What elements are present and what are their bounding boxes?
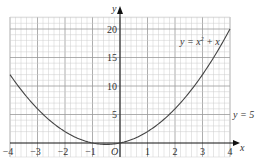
y-tick-label: 10 — [107, 81, 117, 92]
x-tick-label: −2 — [58, 146, 69, 157]
x-tick-label: 4 — [228, 146, 233, 157]
y-tick-labels: 5101520 — [107, 24, 117, 121]
origin-label: O — [111, 146, 118, 157]
x-tick-label: 1 — [145, 146, 150, 157]
y-tick-label: 15 — [107, 52, 117, 63]
x-tick-label: 2 — [173, 146, 178, 157]
curve-label: y = x2 + x — [179, 36, 220, 47]
y-tick-label: 20 — [107, 24, 117, 35]
x-tick-label: −4 — [3, 146, 14, 157]
y-tick-label: 5 — [112, 109, 117, 120]
line-label-y-equals-5: y = 5 — [232, 109, 254, 120]
chart: y x O −4−3−2−11234 5101520 y = x2 + x y … — [0, 0, 257, 167]
y-axis-label: y — [111, 3, 117, 14]
x-axis-label: x — [239, 142, 245, 153]
x-tick-label: 3 — [200, 146, 205, 157]
x-tick-label: −1 — [85, 146, 96, 157]
x-tick-label: −3 — [30, 146, 41, 157]
